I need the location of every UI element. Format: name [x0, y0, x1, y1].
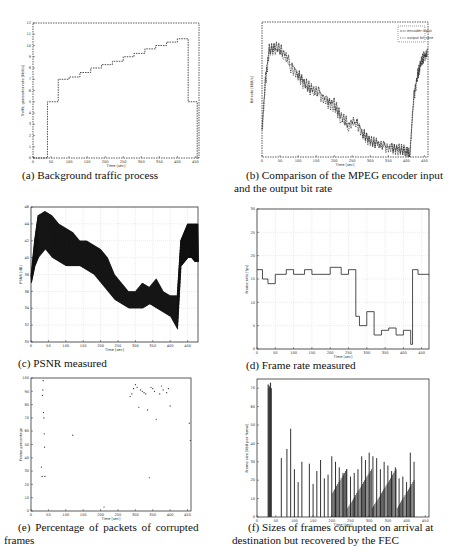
svg-text:encoder input: encoder input: [407, 29, 433, 33]
svg-text:11: 11: [26, 32, 31, 36]
svg-text:0: 0: [261, 159, 264, 163]
bar: [328, 475, 329, 517]
svg-text:400: 400: [400, 351, 408, 355]
svg-text:20: 20: [24, 483, 29, 487]
svg-text:7: 7: [29, 77, 31, 81]
data-point: [138, 407, 139, 408]
svg-text:30: 30: [250, 460, 255, 464]
svg-text:2: 2: [29, 134, 31, 138]
caption-f-line1: (f) Sizes of frames corrupted on arrival…: [232, 521, 458, 534]
svg-text:60: 60: [250, 405, 255, 409]
svg-text:Time [sec]: Time [sec]: [104, 348, 124, 352]
svg-text:50: 50: [278, 159, 283, 163]
svg-text:25: 25: [250, 231, 255, 235]
panel-d: 050100150200250300350400450051015202530T…: [230, 195, 460, 380]
svg-text:350: 350: [385, 159, 393, 163]
svg-text:10: 10: [250, 301, 255, 305]
data-point: [103, 506, 104, 507]
svg-text:450: 450: [184, 513, 192, 517]
svg-text:350: 350: [382, 351, 390, 355]
data-point: [190, 440, 191, 441]
data-point: [163, 389, 164, 390]
svg-text:50: 50: [24, 443, 29, 447]
data-point: [140, 389, 141, 390]
data-point: [44, 476, 45, 477]
data-point: [143, 392, 144, 393]
svg-text:Frame size [kbit per frame]: Frame size [kbit per frame]: [245, 423, 249, 473]
svg-text:1: 1: [29, 145, 31, 149]
svg-text:300: 300: [132, 513, 140, 517]
data-point: [142, 391, 143, 392]
bar: [271, 388, 272, 517]
svg-text:100: 100: [62, 344, 70, 348]
svg-text:0: 0: [30, 513, 33, 517]
svg-text:200: 200: [97, 344, 105, 348]
svg-text:40: 40: [24, 456, 29, 460]
data-point: [152, 388, 153, 389]
svg-text:40: 40: [24, 256, 29, 260]
data-point: [145, 393, 146, 394]
svg-text:10: 10: [26, 44, 31, 48]
svg-text:32: 32: [24, 323, 29, 327]
bar: [313, 484, 314, 517]
bar: [309, 464, 310, 517]
svg-text:150: 150: [80, 513, 88, 517]
svg-text:90: 90: [24, 390, 29, 394]
svg-text:5: 5: [253, 324, 255, 328]
svg-text:300: 300: [132, 344, 140, 348]
svg-text:0: 0: [32, 160, 35, 164]
svg-text:50: 50: [46, 513, 51, 517]
data-point: [170, 405, 171, 406]
svg-text:5: 5: [29, 100, 31, 104]
caption-a: (a) Background traffic process: [22, 169, 158, 182]
data-point: [168, 388, 169, 389]
data-point: [156, 419, 157, 420]
svg-text:40: 40: [250, 442, 255, 446]
svg-text:300: 300: [367, 159, 375, 163]
svg-text:50: 50: [273, 351, 278, 355]
svg-text:30: 30: [24, 469, 29, 473]
svg-text:350: 350: [149, 344, 157, 348]
data-point: [154, 391, 155, 392]
data-point: [44, 433, 45, 434]
bar: [281, 458, 282, 517]
svg-text:30: 30: [250, 207, 255, 211]
svg-text:9: 9: [29, 55, 32, 59]
svg-text:12: 12: [26, 21, 31, 25]
bar: [320, 460, 321, 517]
svg-text:300: 300: [363, 351, 371, 355]
bar: [290, 429, 291, 517]
svg-text:output bit rate: output bit rate: [407, 36, 434, 40]
data-point: [135, 384, 136, 385]
svg-text:350: 350: [149, 513, 157, 517]
svg-text:34: 34: [24, 306, 29, 310]
data-point: [150, 387, 151, 388]
svg-text:10: 10: [250, 497, 255, 501]
svg-text:4: 4: [29, 111, 32, 115]
svg-text:20: 20: [250, 478, 255, 482]
bar: [294, 469, 295, 517]
svg-text:0: 0: [30, 344, 33, 348]
svg-text:350: 350: [156, 160, 164, 164]
svg-text:Frame rate [fps]: Frame rate [fps]: [245, 264, 249, 294]
chart-c: 0501001502002503003504004503032343638404…: [0, 195, 230, 380]
panel-a: 0501001502002503003504004500123456789101…: [0, 0, 230, 200]
svg-text:450: 450: [184, 344, 192, 348]
data-point: [130, 396, 131, 397]
bar: [324, 478, 325, 517]
svg-text:44: 44: [24, 222, 29, 226]
svg-text:100: 100: [66, 160, 74, 164]
bar: [316, 471, 317, 517]
data-point: [43, 412, 44, 413]
data-point: [133, 388, 134, 389]
data-point: [43, 380, 44, 381]
data-point: [42, 389, 43, 390]
svg-text:150: 150: [84, 160, 92, 164]
data-point: [149, 477, 150, 478]
axes-box: [31, 378, 191, 511]
svg-text:150: 150: [308, 351, 316, 355]
svg-text:8: 8: [29, 66, 32, 70]
data-point: [44, 447, 45, 448]
svg-text:Bit rate [kbit/s]: Bit rate [kbit/s]: [250, 75, 254, 103]
panel-b: 050100150200250300350400450Time [sec]Bit…: [230, 0, 460, 200]
